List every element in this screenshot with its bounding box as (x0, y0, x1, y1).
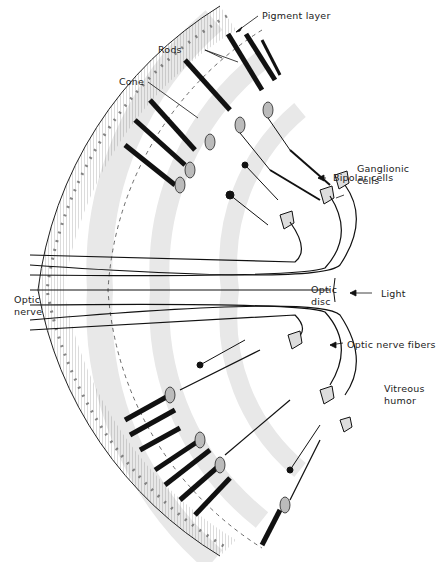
label-rods: Rods (158, 44, 182, 56)
label-optic-nerve: Optic nerve (14, 294, 42, 318)
label-optic-disc-line-a: Optic (311, 284, 337, 296)
label-optic-nerve-fibers: Optic nerve fibers (347, 339, 436, 351)
label-optic-disc: Optic disc (311, 284, 337, 308)
label-ganglionic-cells: Ganglionic cells (357, 163, 409, 187)
lower-ganglion-cells (288, 331, 352, 432)
label-cone: Cone (119, 76, 144, 88)
label-vitreous-humor-line-a: Vitreous (384, 383, 425, 395)
label-vitreous-humor-line-b: humor (384, 395, 425, 407)
label-ganglionic-cells-line-b: cells (357, 175, 409, 187)
label-optic-nerve-line-b: nerve (14, 306, 42, 318)
label-optic-nerve-line-a: Optic (14, 294, 42, 306)
label-pigment-layer: Pigment layer (262, 10, 331, 22)
label-ganglionic-cells-line-a: Ganglionic (357, 163, 409, 175)
label-light: Light (381, 288, 406, 300)
label-optic-disc-line-b: disc (311, 296, 337, 308)
label-vitreous-humor: Vitreous humor (384, 383, 425, 407)
